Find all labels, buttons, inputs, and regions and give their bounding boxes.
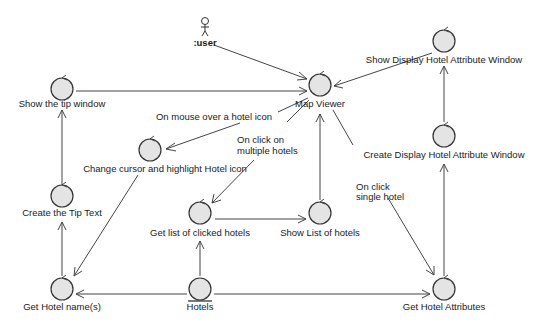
node-label: Show Display Hotel Attribute Window — [366, 54, 522, 65]
edge-label-mouse-over: On mouse over a hotel icon — [156, 111, 272, 122]
node-label: Change cursor and highlight Hotel icon — [83, 163, 247, 174]
edge-label-click-multiple-2: multiple hotels — [237, 145, 298, 156]
control-object-icon — [51, 185, 73, 207]
node-label: Show the tip window — [19, 98, 106, 109]
node-label: Hotels — [187, 301, 214, 312]
node-label: Show List of hotels — [280, 227, 360, 238]
edge-map-viewer-to-get-attributes — [333, 110, 353, 145]
control-object-icon — [433, 125, 455, 147]
control-object-icon — [189, 202, 211, 224]
node-show-tip-window[interactable]: Show the tip window — [19, 75, 106, 109]
node-label: Get list of clicked hotels — [150, 227, 250, 238]
control-object-icon — [51, 78, 73, 100]
edge-map-viewer-to-get-attributes-2 — [388, 198, 434, 275]
control-object-icon — [433, 278, 455, 300]
node-create-tip-text[interactable]: Create the Tip Text — [22, 182, 102, 218]
edge-label-click-multiple-1: On click on — [237, 134, 284, 145]
edge-map-viewer-to-change-cursor-2 — [166, 123, 240, 149]
edge-label-click-single-2: single hotel — [356, 191, 404, 202]
control-object-icon — [51, 278, 73, 300]
node-label: Get Hotel Attributes — [403, 301, 486, 312]
node-change-cursor[interactable]: Change cursor and highlight Hotel icon — [83, 136, 247, 174]
actor-label: :user — [193, 37, 217, 48]
node-hotels-entity[interactable]: Hotels — [187, 278, 214, 312]
edge-change-cursor-to-get-names — [74, 175, 138, 276]
control-object-icon — [433, 30, 455, 52]
node-map-viewer[interactable]: Map Viewer — [295, 71, 345, 109]
node-label: Map Viewer — [295, 98, 345, 109]
node-show-display-window[interactable]: Show Display Hotel Attribute Window — [366, 27, 522, 65]
control-object-icon — [309, 202, 331, 224]
actor-user[interactable]: :user — [193, 18, 217, 49]
stick-figure-icon — [201, 18, 209, 37]
edge-user-to-map-viewer — [214, 45, 307, 79]
robustness-diagram: :user Map Viewer Show Display Hotel Attr… — [0, 0, 541, 326]
entity-object-icon — [189, 278, 211, 300]
node-label: Create Display Hotel Attribute Window — [363, 149, 524, 160]
control-object-icon — [139, 139, 161, 161]
node-label: Get Hotel name(s) — [23, 301, 101, 312]
node-create-display-window[interactable]: Create Display Hotel Attribute Window — [363, 122, 524, 160]
node-label: Create the Tip Text — [22, 207, 102, 218]
control-object-icon — [309, 74, 331, 96]
